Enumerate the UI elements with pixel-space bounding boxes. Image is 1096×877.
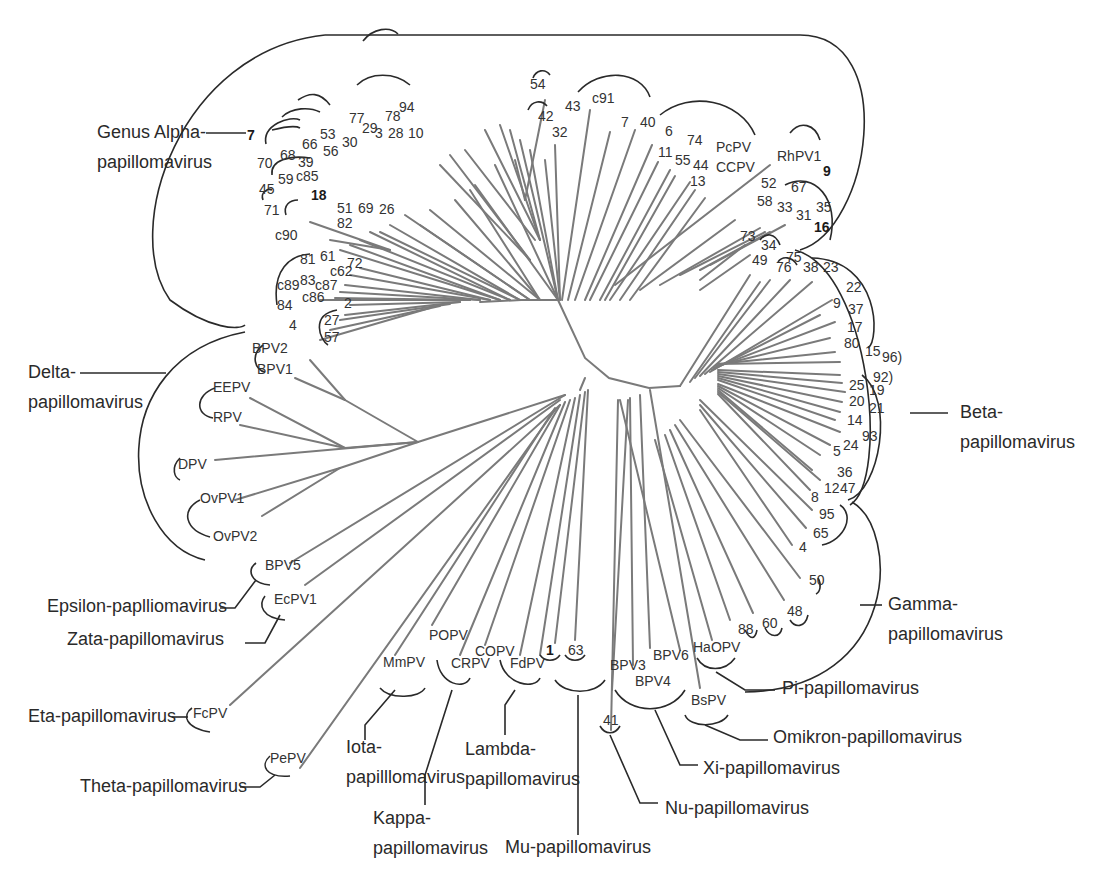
leaf-label: FdPV: [510, 655, 546, 671]
leaf-label: 56: [323, 143, 339, 159]
leaf-label: 93: [862, 428, 878, 444]
leaf-label: BPV2: [252, 340, 288, 356]
leaf-label: 74: [687, 132, 703, 148]
leaf-label: EEPV: [213, 379, 251, 395]
genus-label: Iota-: [346, 737, 382, 757]
leaf-label: 23: [823, 259, 839, 275]
leaf-label: 1: [546, 642, 554, 658]
leaf-label: 13: [690, 173, 706, 189]
leaf-label: 9: [833, 295, 841, 311]
leaf-label: EcPV1: [274, 591, 317, 607]
genus-label: Mu-papillomavirus: [505, 837, 651, 857]
leaf-label: BPV5: [265, 557, 301, 573]
leaf-label: 37: [848, 301, 864, 317]
leaf-label: 57: [324, 329, 340, 345]
leaf-label: 71: [264, 202, 280, 218]
leaf-label: 44: [693, 157, 709, 173]
leaf-label: 16: [814, 219, 830, 235]
leaf-label: 15: [865, 343, 881, 359]
leaf-label: 34: [761, 237, 777, 253]
genus-label: Eta-papillomavirus: [28, 706, 176, 726]
genus-label: papillomavirus: [373, 838, 488, 858]
genus-label: papillomavirus: [465, 769, 580, 789]
leaf-label: 8: [811, 489, 819, 505]
leaf-label: 21: [869, 400, 885, 416]
genus-label: papilllomavirus: [346, 767, 465, 787]
leaf-label: 58: [757, 193, 773, 209]
leaf-label: 50: [809, 572, 825, 588]
leaf-label: 43: [565, 98, 581, 114]
leaf-label: 49: [752, 252, 768, 268]
leaf-label: 47: [840, 480, 856, 496]
leaf-label: 7: [621, 114, 629, 130]
leaf-label: 2: [344, 295, 352, 311]
leaf-label: 65: [813, 525, 829, 541]
leaf-label: PcPV: [716, 139, 752, 155]
leaf-label: 36: [837, 464, 853, 480]
leaf-label: BPV3: [610, 657, 646, 673]
leaf-label: 9: [823, 163, 831, 179]
leaf-label: 3: [375, 125, 383, 141]
leaf-label: 19: [869, 382, 885, 398]
leaf-label: 42: [538, 108, 554, 124]
genus-label: papillomavirus: [97, 152, 212, 172]
leaf-label: 84: [277, 297, 293, 313]
leaf-label: BsPV: [691, 692, 727, 708]
leaf-label: 95: [819, 506, 835, 522]
leaf-label: 6: [665, 123, 673, 139]
genus-label: Xi-papillomavirus: [703, 758, 840, 778]
leaf-label: 28: [388, 125, 404, 141]
leaf-label: 25: [849, 377, 865, 393]
genus-label: Gamma-: [888, 594, 958, 614]
genus-label: Omikron-papillomavirus: [773, 727, 962, 747]
leaf-label: CCPV: [716, 159, 756, 175]
leaf-label: OvPV1: [200, 490, 245, 506]
leaf-label: 51: [337, 200, 353, 216]
leaf-label: 48: [787, 603, 803, 619]
leaf-label: 60: [762, 615, 778, 631]
leaf-label: 20: [849, 393, 865, 409]
genus-labels: Genus Alpha-papillomavirusDelta-papillom…: [28, 122, 1075, 858]
genus-label: Delta-: [28, 362, 76, 382]
leaf-label: 80: [844, 335, 860, 351]
genus-label: Theta-papillomavirus: [80, 776, 247, 796]
phylogenetic-tree: 77068455939c8518516926826653563077293782…: [0, 0, 1096, 877]
leaf-label: 38: [803, 259, 819, 275]
leaf-label: 81: [300, 251, 316, 267]
leaf-label: 82: [337, 215, 353, 231]
leaf-label: 31: [796, 207, 812, 223]
genus-label: Epsilon-paplliomavirus: [47, 596, 227, 616]
leaf-label: 17: [847, 319, 863, 335]
genus-label: Lambda-: [465, 739, 536, 759]
genus-label: papillomavirus: [28, 392, 143, 412]
genus-label: Nu-papillomavirus: [665, 798, 809, 818]
genus-label: Zata-papillomavirus: [67, 629, 224, 649]
leaf-label: 27: [324, 312, 340, 328]
leaf-label: POPV: [429, 627, 469, 643]
leaf-label: 22: [846, 279, 862, 295]
leaf-label: BPV4: [635, 673, 671, 689]
leaf-label: 18: [311, 187, 327, 203]
leaf-label: c85: [296, 168, 319, 184]
leaf-label: 94: [399, 99, 415, 115]
leaf-label: 63: [568, 642, 584, 658]
leaf-label: 5: [833, 443, 841, 459]
leaf-label: 11: [658, 144, 673, 160]
genus-label: Pi-papillomavirus: [782, 678, 919, 698]
leaf-label: 83: [300, 272, 316, 288]
genus-label: Kappa-: [373, 808, 431, 828]
leaf-label: 7: [247, 127, 255, 143]
leaf-label: 53: [320, 126, 336, 142]
leaf-label: 67: [791, 179, 807, 195]
leaf-label: RhPV1: [777, 148, 822, 164]
leaf-label: FcPV: [193, 705, 228, 721]
genus-label: papillomavirus: [960, 432, 1075, 452]
leaf-label: 66: [302, 136, 318, 152]
leaf-label: 54: [530, 76, 546, 92]
leaf-label: c90: [275, 227, 298, 243]
leaf-label: 24: [843, 437, 859, 453]
leaf-label: 55: [675, 152, 691, 168]
leaf-label: PePV: [270, 750, 306, 766]
leaf-label: 32: [552, 124, 568, 140]
leaf-label: c86: [302, 289, 325, 305]
